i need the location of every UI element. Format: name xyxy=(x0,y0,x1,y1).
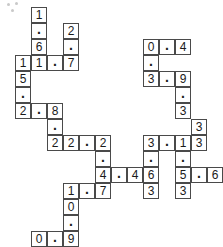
cell-c0-r6[interactable]: 2 xyxy=(15,103,31,119)
cell-c2-r14[interactable]: . xyxy=(47,231,63,247)
cell-c9-r4[interactable]: . xyxy=(159,71,175,87)
cell-c11-r7[interactable]: 3 xyxy=(191,119,207,135)
cell-c11-r10[interactable]: . xyxy=(191,167,207,183)
cell-c10-r5[interactable]: . xyxy=(175,87,191,103)
cell-c12-r10[interactable]: 6 xyxy=(207,167,223,183)
cell-c1-r3[interactable]: 1 xyxy=(31,55,47,71)
cell-c5-r9[interactable]: . xyxy=(95,151,111,167)
cell-c8-r9[interactable]: . xyxy=(143,151,159,167)
cell-c3-r8[interactable]: 2 xyxy=(63,135,79,151)
cell-c1-r2[interactable]: 6 xyxy=(31,39,47,55)
cell-c8-r10[interactable]: 6 xyxy=(143,167,159,183)
cell-c0-r3[interactable]: 1 xyxy=(15,55,31,71)
cell-c8-r4[interactable]: 3 xyxy=(143,71,159,87)
cell-c0-r5[interactable]: . xyxy=(15,87,31,103)
cell-c10-r11[interactable]: 3 xyxy=(175,183,191,199)
cell-c8-r11[interactable]: 3 xyxy=(143,183,159,199)
cell-c9-r2[interactable]: . xyxy=(159,39,175,55)
cell-c10-r9[interactable]: . xyxy=(175,151,191,167)
cell-c1-r14[interactable]: 0 xyxy=(31,231,47,247)
cell-c5-r11[interactable]: 7 xyxy=(95,183,111,199)
cell-c1-r6[interactable]: . xyxy=(31,103,47,119)
scan-speckle-1 xyxy=(15,2,18,5)
cell-c3-r3[interactable]: 7 xyxy=(63,55,79,71)
scan-speckle-0 xyxy=(7,3,10,6)
cell-c3-r14[interactable]: 9 xyxy=(63,231,79,247)
cell-c2-r7[interactable]: . xyxy=(47,119,63,135)
cell-c3-r2[interactable]: . xyxy=(63,39,79,55)
scan-speckle-2 xyxy=(11,9,14,12)
cell-c6-r10[interactable]: . xyxy=(111,167,127,183)
cell-c4-r11[interactable]: . xyxy=(79,183,95,199)
cell-c2-r3[interactable]: . xyxy=(47,55,63,71)
cell-c11-r8[interactable]: 3 xyxy=(191,135,207,151)
cell-c10-r2[interactable]: 4 xyxy=(175,39,191,55)
cell-c9-r8[interactable]: . xyxy=(159,135,175,151)
cell-c4-r8[interactable]: . xyxy=(79,135,95,151)
cell-c1-r1[interactable]: . xyxy=(31,23,47,39)
cell-c3-r13[interactable]: . xyxy=(63,215,79,231)
cell-c3-r11[interactable]: 1 xyxy=(63,183,79,199)
cell-c2-r8[interactable]: 2 xyxy=(47,135,63,151)
cell-c10-r10[interactable]: 5 xyxy=(175,167,191,183)
cell-c10-r6[interactable]: 3 xyxy=(175,103,191,119)
cell-c7-r10[interactable]: 4 xyxy=(127,167,143,183)
cell-c8-r3[interactable]: . xyxy=(143,55,159,71)
cell-c5-r10[interactable]: 4 xyxy=(95,167,111,183)
